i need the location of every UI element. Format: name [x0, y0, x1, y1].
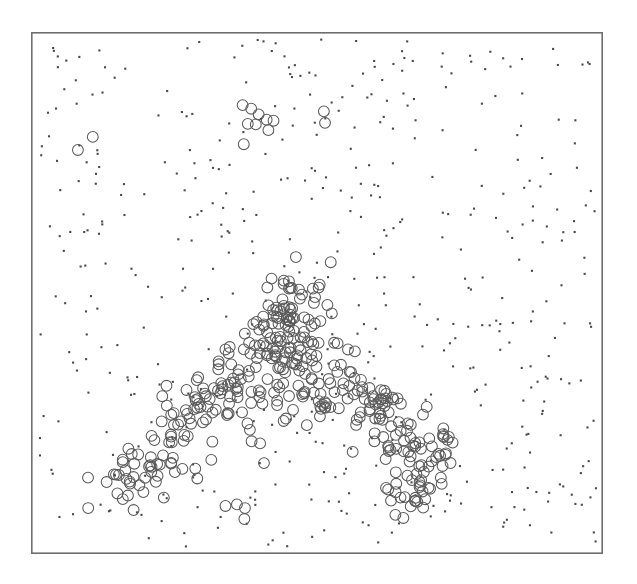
noise-point — [545, 376, 547, 378]
noise-point — [473, 208, 475, 210]
cluster-point — [166, 409, 177, 420]
noise-point — [346, 513, 348, 515]
noise-point — [208, 348, 210, 350]
cluster-point — [220, 501, 231, 512]
noise-point — [120, 194, 122, 196]
noise-point — [308, 72, 310, 74]
noise-point — [356, 333, 358, 335]
noise-point — [164, 161, 166, 163]
noise-point — [304, 180, 306, 182]
noise-point — [446, 493, 448, 495]
noise-point — [220, 516, 222, 518]
noise-point — [481, 324, 483, 326]
cluster-point — [278, 416, 289, 427]
noise-point — [447, 213, 449, 215]
noise-point — [532, 310, 534, 312]
noise-point — [431, 176, 433, 178]
noise-point — [274, 105, 276, 107]
cluster-point — [284, 391, 295, 402]
noise-point — [184, 286, 186, 288]
noise-point — [460, 502, 462, 504]
noise-point — [546, 225, 548, 227]
noise-point — [76, 369, 78, 371]
noise-point — [374, 66, 376, 68]
noise-point — [229, 164, 231, 166]
noise-point — [39, 454, 41, 456]
noise-point — [72, 513, 74, 515]
noise-point — [123, 183, 125, 185]
noise-point — [464, 278, 466, 280]
noise-point — [212, 167, 214, 169]
noise-point — [176, 173, 178, 175]
noise-point — [95, 173, 97, 175]
noise-point — [373, 60, 375, 62]
noise-point — [101, 91, 103, 93]
noise-point — [166, 497, 168, 499]
noise-point — [379, 196, 381, 198]
noise-point — [327, 276, 329, 278]
noise-point — [340, 190, 342, 192]
noise-point — [334, 476, 336, 478]
noise-point — [124, 68, 126, 70]
noise-point — [150, 421, 152, 423]
noise-point — [310, 498, 312, 500]
cluster-point — [201, 414, 212, 425]
noise-point — [516, 134, 518, 136]
noise-point — [586, 426, 588, 428]
noise-point — [511, 237, 513, 239]
cluster-point — [325, 378, 336, 389]
noise-point — [541, 157, 543, 159]
noise-point — [80, 266, 82, 268]
noise-point — [450, 72, 452, 74]
noise-point — [91, 94, 93, 96]
noise-point — [485, 384, 487, 386]
noise-point — [133, 393, 135, 395]
noise-point — [502, 469, 504, 471]
noise-point — [325, 176, 327, 178]
cluster-point — [318, 106, 329, 117]
noise-point — [228, 122, 230, 124]
cluster-point — [369, 428, 380, 439]
noise-point — [202, 490, 204, 492]
noise-point — [264, 153, 266, 155]
noise-point — [85, 310, 87, 312]
noise-point — [135, 274, 137, 276]
noise-point — [348, 492, 350, 494]
cluster-point — [83, 472, 94, 483]
noise-point — [242, 208, 244, 210]
cluster-point — [343, 344, 354, 355]
noise-point — [314, 74, 316, 76]
noise-point — [391, 532, 393, 534]
noise-point — [144, 475, 146, 477]
noise-point — [517, 159, 519, 161]
cluster-point — [198, 417, 209, 428]
noise-point — [186, 47, 188, 49]
noise-point — [49, 225, 51, 227]
noise-point — [354, 126, 356, 128]
noise-point — [182, 268, 184, 270]
noise-point — [286, 545, 288, 547]
noise-point — [116, 344, 118, 346]
noise-point — [426, 324, 428, 326]
noise-point — [177, 238, 179, 240]
noise-point — [509, 66, 511, 68]
noise-point — [41, 145, 43, 147]
noise-point — [521, 58, 523, 60]
noise-point — [377, 541, 379, 543]
noise-point — [560, 284, 562, 286]
noise-point — [220, 224, 222, 226]
noise-point — [490, 506, 492, 508]
noise-point — [595, 487, 597, 489]
noise-point — [367, 361, 369, 363]
noise-point — [218, 168, 220, 170]
noise-point — [161, 296, 163, 298]
noise-point — [72, 362, 74, 364]
cluster-point — [207, 436, 218, 447]
cluster-point — [246, 103, 257, 114]
noise-point — [522, 223, 524, 225]
cluster-point — [83, 503, 94, 514]
cluster-point — [301, 420, 312, 431]
cluster-point — [237, 100, 248, 111]
noise-point — [410, 481, 412, 483]
noise-point — [311, 411, 313, 413]
